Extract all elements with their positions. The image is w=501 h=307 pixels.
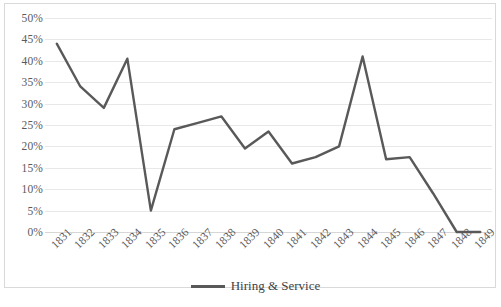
- y-tick-label: 25%: [22, 119, 43, 131]
- y-tick-label: 5%: [27, 205, 43, 217]
- chart-frame: 0%5%10%15%20%25%30%35%40%45%50% 18311832…: [4, 3, 496, 288]
- y-tick-label: 45%: [22, 33, 43, 45]
- legend-line-swatch-icon: [191, 285, 225, 288]
- y-tick-label: 30%: [22, 98, 43, 110]
- y-tick-label: 35%: [22, 76, 43, 88]
- y-tick-label: 40%: [22, 55, 43, 67]
- plot-area: [45, 18, 492, 232]
- y-tick-label: 20%: [22, 140, 43, 152]
- figure-caption: [0, 297, 501, 307]
- chart-figure: 0%5%10%15%20%25%30%35%40%45%50% 18311832…: [0, 0, 501, 307]
- chart-legend: Hiring & Service: [5, 278, 501, 294]
- y-axis: 0%5%10%15%20%25%30%35%40%45%50%: [9, 18, 43, 232]
- legend-item-label: Hiring & Service: [231, 278, 321, 294]
- y-tick-label: 10%: [22, 183, 43, 195]
- x-axis: 1831183218331834183518361837183818391840…: [45, 234, 492, 274]
- y-tick-label: 0%: [27, 226, 43, 238]
- series-hiring-and-service: [45, 18, 492, 232]
- series-line: [57, 44, 480, 232]
- y-tick-label: 15%: [22, 162, 43, 174]
- y-tick-label: 50%: [22, 12, 43, 24]
